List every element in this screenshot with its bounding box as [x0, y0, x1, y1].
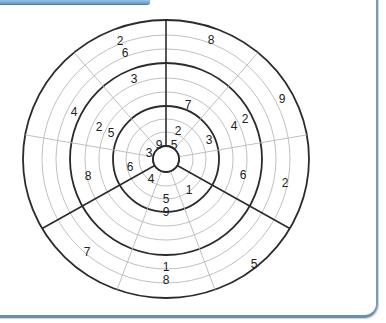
given-digit: 6 — [127, 160, 134, 174]
given-digit: 7 — [185, 98, 192, 112]
given-digit: 5 — [108, 126, 115, 140]
given-digit: 5 — [171, 138, 178, 152]
given-digit: 3 — [206, 133, 213, 147]
given-digit: 8 — [163, 273, 170, 287]
circular-sudoku-board[interactable]: 2683947252423953686241597185 — [0, 0, 386, 323]
given-digit: 9 — [163, 205, 170, 219]
given-digit: 1 — [163, 260, 170, 274]
thin-sector-divider — [25, 135, 153, 157]
given-digit: 4 — [231, 119, 238, 133]
given-digit: 3 — [146, 146, 153, 160]
given-digit: 4 — [71, 105, 78, 119]
given-digit: 8 — [208, 33, 215, 47]
thin-sector-divider — [74, 53, 158, 150]
given-digit: 1 — [186, 183, 193, 197]
thin-sector-divider — [179, 135, 307, 157]
given-digit: 2 — [282, 176, 289, 190]
given-digit: 2 — [175, 124, 182, 138]
given-digit: 2 — [96, 120, 103, 134]
given-digit: 5 — [251, 257, 258, 271]
given-digit: 6 — [122, 46, 129, 60]
given-digit: 7 — [84, 245, 91, 259]
heavy-sector-divider — [42, 166, 155, 229]
given-digit: 3 — [131, 72, 138, 86]
sector-lines — [25, 20, 307, 290]
given-digit: 5 — [163, 192, 170, 206]
heavy-sector-divider — [177, 166, 290, 229]
given-digit: 4 — [148, 172, 155, 186]
given-digit: 2 — [242, 112, 249, 126]
given-digit: 6 — [240, 168, 247, 182]
given-digit: 9 — [279, 92, 286, 106]
given-digit: 9 — [156, 138, 163, 152]
given-digit: 8 — [85, 169, 92, 183]
